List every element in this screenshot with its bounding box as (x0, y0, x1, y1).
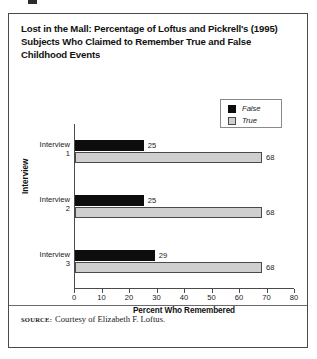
category-label: Interview1 (20, 140, 70, 159)
category-label-line: Interview (20, 195, 70, 205)
legend-entry-false: False (228, 103, 281, 114)
y-axis-title: Interview (21, 159, 30, 195)
x-tick-label: 30 (152, 293, 160, 302)
bar-group: Interview12568 (75, 124, 294, 179)
category-label-line: Interview (20, 250, 70, 260)
source-divider (9, 305, 307, 306)
bar-value-label: 68 (266, 262, 274, 273)
x-tick-label: 60 (235, 293, 243, 302)
category-label: Interview2 (20, 195, 70, 214)
plot-area: Interview Interview12568Interview22568In… (74, 124, 294, 289)
category-label: Interview3 (20, 250, 70, 269)
bar-value-label: 68 (266, 207, 274, 218)
bar-group: Interview22568 (75, 179, 294, 234)
x-tick-label: 0 (72, 293, 76, 302)
x-tick-label: 10 (97, 293, 105, 302)
x-tick-label: 40 (180, 293, 188, 302)
bar-value-label: 29 (159, 250, 167, 261)
x-tick-label: 20 (125, 293, 133, 302)
x-tick-label: 80 (290, 293, 298, 302)
source-keyword: SOURCE: (21, 316, 52, 323)
source-text: Courtesy of Elizabeth F. Loftus. (55, 314, 165, 324)
bar-value-label: 25 (148, 140, 156, 151)
legend-swatch-false-icon (228, 105, 236, 113)
figure-root: Lost in the Mall: Percentage of Loftus a… (0, 0, 317, 359)
category-label-line: 2 (20, 204, 70, 214)
bar-false[interactable] (75, 195, 144, 206)
category-label-line: Interview (20, 140, 70, 150)
bar-group: Interview32968 (75, 234, 294, 289)
bar-value-label: 68 (266, 152, 274, 163)
category-label-line: 1 (20, 149, 70, 159)
page-crop-mark (28, 0, 37, 4)
figure-frame: Lost in the Mall: Percentage of Loftus a… (8, 13, 308, 348)
legend-label-false: False (242, 104, 261, 113)
figure-title: Lost in the Mall: Percentage of Loftus a… (21, 22, 293, 62)
bar-true[interactable] (75, 207, 262, 218)
bar-true[interactable] (75, 262, 262, 273)
source-note: SOURCE:Courtesy of Elizabeth F. Loftus. (21, 314, 165, 324)
x-tick-label: 70 (262, 293, 270, 302)
bar-true[interactable] (75, 152, 262, 163)
x-axis-ticks: 01020304050607080 (74, 289, 294, 305)
category-label-line: 3 (20, 259, 70, 269)
bar-value-label: 25 (148, 195, 156, 206)
x-tick-label: 50 (207, 293, 215, 302)
bar-false[interactable] (75, 140, 144, 151)
bar-false[interactable] (75, 250, 155, 261)
